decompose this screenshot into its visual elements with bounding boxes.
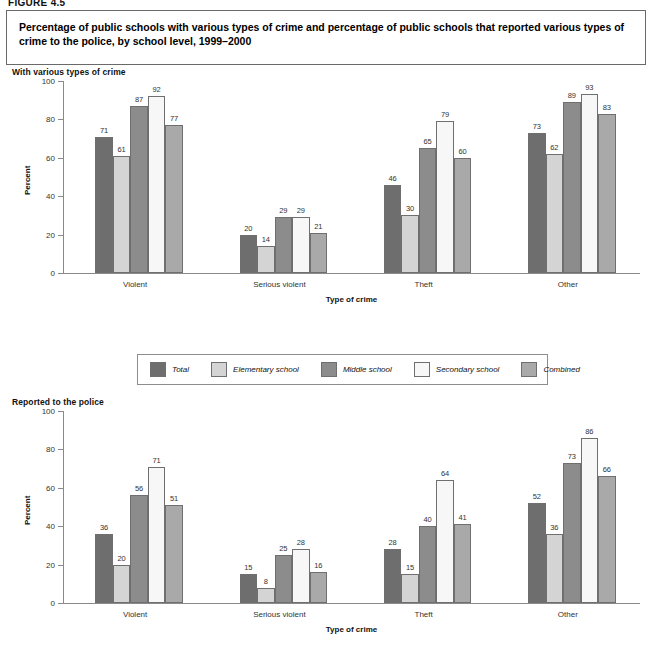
- y-axis-tick-label: 60: [46, 483, 55, 492]
- bar: [310, 233, 328, 273]
- bar-value-label: 28: [288, 538, 314, 547]
- bar-value-label: 71: [91, 126, 117, 135]
- x-axis-group-label: Violent: [63, 280, 207, 289]
- y-axis-tick-label: 60: [46, 153, 55, 162]
- y-axis-tick-label: 40: [46, 522, 55, 531]
- legend-swatch-icon: [150, 362, 166, 377]
- x-axis-title: Type of crime: [63, 295, 640, 304]
- chart-subtitle: With various types of crime: [12, 67, 126, 77]
- bar: [563, 463, 581, 603]
- x-axis-group-label: Other: [496, 610, 640, 619]
- legend-swatch-icon: [211, 362, 227, 377]
- figure-number: FIGURE 4.5: [8, 0, 65, 8]
- bar-value-label: 71: [144, 456, 170, 465]
- y-axis-tick: [58, 158, 63, 159]
- x-axis-title: Type of crime: [63, 625, 640, 634]
- y-axis-tick-label: 20: [46, 230, 55, 239]
- bar: [95, 534, 113, 603]
- bar-value-label: 93: [577, 83, 603, 92]
- bar-value-label: 77: [161, 114, 187, 123]
- bar: [113, 156, 131, 273]
- y-axis-tick: [58, 449, 63, 450]
- y-axis-title: Percent: [23, 166, 32, 195]
- bar: [528, 133, 546, 273]
- bar: [581, 438, 599, 603]
- y-axis-tick: [58, 565, 63, 566]
- bar: [546, 154, 564, 273]
- x-axis-group-label: Theft: [352, 610, 496, 619]
- bar: [130, 106, 148, 273]
- bar: [546, 534, 564, 603]
- legend-item-elementary-school[interactable]: Elementary school: [211, 362, 299, 377]
- x-axis-group-label: Violent: [63, 610, 207, 619]
- bar: [275, 217, 293, 273]
- x-axis-group-label: Serious violent: [207, 610, 351, 619]
- bar: [275, 555, 293, 603]
- bar-value-label: 86: [577, 427, 603, 436]
- legend-swatch-icon: [521, 362, 537, 377]
- y-axis-tick-label: 80: [46, 445, 55, 454]
- y-axis-tick: [58, 196, 63, 197]
- bar-value-label: 92: [144, 85, 170, 94]
- x-axis-group-label: Theft: [352, 280, 496, 289]
- x-axis-line: [63, 273, 640, 274]
- legend-item-combined[interactable]: Combined: [521, 362, 579, 377]
- y-axis-line: [63, 81, 64, 273]
- y-axis-tick: [58, 603, 63, 604]
- y-axis-tick: [58, 273, 63, 274]
- bar: [384, 185, 402, 273]
- bar: [598, 114, 616, 273]
- bar-value-label: 73: [524, 122, 550, 131]
- bar-value-label: 15: [236, 563, 262, 572]
- legend-swatch-icon: [321, 362, 337, 377]
- bar-value-label: 41: [450, 513, 476, 522]
- legend-item-total[interactable]: Total: [150, 362, 189, 377]
- legend: TotalElementary schoolMiddle schoolSecon…: [137, 354, 548, 385]
- y-axis-tick: [58, 81, 63, 82]
- legend-label: Total: [172, 365, 189, 374]
- bar: [113, 565, 131, 603]
- x-axis-line: [63, 603, 640, 604]
- bar-value-label: 52: [524, 492, 550, 501]
- bar: [257, 588, 275, 603]
- bar-value-label: 16: [306, 561, 332, 570]
- y-axis-tick-label: 20: [46, 560, 55, 569]
- y-axis-tick-label: 100: [42, 77, 55, 86]
- y-axis-tick: [58, 411, 63, 412]
- bar-value-label: 83: [594, 103, 620, 112]
- legend-label: Secondary school: [436, 365, 500, 374]
- bar-value-label: 64: [432, 469, 458, 478]
- bar-value-label: 66: [594, 465, 620, 474]
- bar: [148, 467, 166, 603]
- y-axis-tick: [58, 235, 63, 236]
- legend-item-middle-school[interactable]: Middle school: [321, 362, 392, 377]
- legend-item-secondary-school[interactable]: Secondary school: [414, 362, 500, 377]
- bar: [419, 148, 437, 273]
- bar: [436, 480, 454, 603]
- y-axis-tick-label: 80: [46, 115, 55, 124]
- bar-value-label: 28: [380, 538, 406, 547]
- bar: [165, 125, 183, 273]
- bar: [563, 102, 581, 273]
- chart-subtitle: Reported to the police: [12, 397, 104, 407]
- y-axis-tick: [58, 488, 63, 489]
- bar: [581, 94, 599, 273]
- y-axis-tick-label: 40: [46, 192, 55, 201]
- bar: [257, 246, 275, 273]
- bar: [165, 505, 183, 603]
- bar-value-label: 51: [161, 494, 187, 503]
- y-axis-tick: [58, 119, 63, 120]
- bar: [130, 495, 148, 603]
- bar: [528, 503, 546, 603]
- bar-value-label: 46: [380, 174, 406, 183]
- y-axis-line: [63, 411, 64, 603]
- bar: [598, 476, 616, 603]
- plot-area-upper: 020406080100Percent7161879277Violent2014…: [63, 81, 640, 273]
- bar: [292, 549, 310, 603]
- bar-value-label: 20: [236, 224, 262, 233]
- bar-value-label: 79: [432, 110, 458, 119]
- y-axis-tick-label: 0: [51, 269, 55, 278]
- bar: [401, 215, 419, 273]
- legend-label: Middle school: [343, 365, 392, 374]
- bar: [419, 526, 437, 603]
